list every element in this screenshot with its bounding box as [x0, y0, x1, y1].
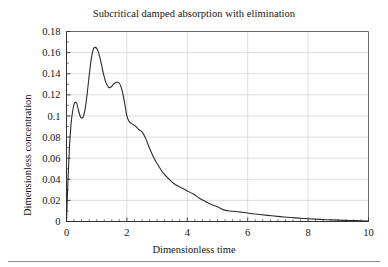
x-tick-labels: 0246810 — [64, 227, 374, 238]
chart-figure: Subcritical damped absorption with elimi… — [0, 0, 388, 267]
x-tick-label: 2 — [124, 227, 129, 238]
y-tick-label: 0.1 — [47, 111, 60, 122]
y-tick-label: 0.08 — [42, 132, 60, 143]
footer-divider — [8, 261, 380, 262]
y-tick-label: 0.18 — [42, 26, 60, 37]
y-tick-label: 0.02 — [42, 195, 60, 206]
grid-lines — [67, 32, 369, 222]
x-tick-label: 10 — [363, 227, 374, 238]
y-tick-label: 0.06 — [42, 153, 60, 164]
plot-canvas: 00.020.040.060.080.10.120.140.160.180246… — [0, 0, 388, 267]
y-tick-label: 0 — [55, 216, 60, 227]
y-tick-label: 0.14 — [42, 68, 61, 79]
axis-frame — [67, 32, 369, 222]
tick-marks — [67, 32, 369, 222]
x-tick-label: 6 — [245, 227, 250, 238]
x-tick-label: 0 — [64, 227, 69, 238]
x-axis-label: Dimensionless time — [0, 244, 388, 255]
x-tick-label: 8 — [305, 227, 310, 238]
y-tick-label: 0.12 — [42, 89, 60, 100]
y-tick-label: 0.16 — [42, 47, 60, 58]
y-axis-label: Dimensionless concentration — [22, 94, 33, 216]
x-tick-label: 4 — [185, 227, 191, 238]
y-tick-label: 0.04 — [42, 174, 61, 185]
y-tick-labels: 00.020.040.060.080.10.120.140.160.18 — [42, 26, 61, 227]
